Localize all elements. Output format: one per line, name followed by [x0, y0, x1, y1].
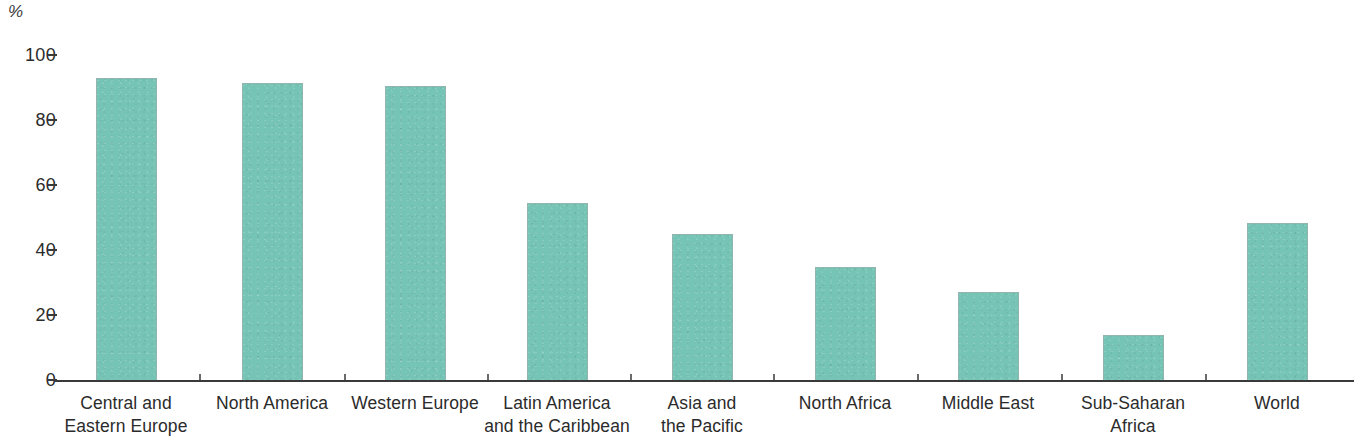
- x-axis-tick-mark: [773, 374, 775, 380]
- bar: [242, 83, 303, 380]
- x-axis-category-label: World: [1177, 392, 1354, 415]
- x-axis-tick-mark: [344, 374, 346, 380]
- x-axis-category-label-line: Africa: [1033, 415, 1233, 438]
- y-axis-unit-label: %: [8, 2, 23, 22]
- plot-area: [55, 20, 1354, 380]
- bar: [1103, 335, 1164, 381]
- bar: [96, 78, 157, 380]
- bar: [815, 267, 876, 380]
- x-axis-tick-mark: [917, 374, 919, 380]
- x-axis-tick-mark: [199, 374, 201, 380]
- bar: [672, 234, 733, 380]
- bar: [527, 203, 588, 380]
- x-axis-line: [55, 380, 1354, 382]
- bar: [385, 86, 446, 380]
- x-axis-category-label-line: Eastern Europe: [26, 415, 226, 438]
- x-axis-tick-mark: [487, 374, 489, 380]
- bar: [1247, 223, 1308, 380]
- bar-chart: % 020406080100 Central andEastern Europe…: [0, 0, 1354, 438]
- x-axis-tick-mark: [1061, 374, 1063, 380]
- bar: [958, 292, 1019, 380]
- x-axis-tick-mark: [630, 374, 632, 380]
- x-axis-category-label-line: the Pacific: [602, 415, 802, 438]
- x-axis-tick-mark: [1205, 374, 1207, 380]
- x-axis-category-label-line: World: [1177, 392, 1354, 415]
